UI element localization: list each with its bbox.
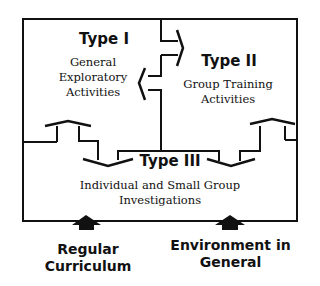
input-label-line: Regular: [38, 241, 138, 258]
type2-desc-line: Group Training: [168, 77, 288, 92]
input-arrow-regular-curriculum: [72, 215, 101, 230]
type2-description: Group Training Activities: [168, 77, 288, 107]
input-label-environment: Environment in General: [168, 237, 293, 271]
type3-desc-line: Investigations: [60, 193, 260, 208]
type3-desc-line: Individual and Small Group: [60, 178, 260, 193]
type1-desc-line: Exploratory: [38, 70, 148, 85]
input-label-line: Curriculum: [38, 258, 138, 275]
input-arrow-environment: [215, 215, 245, 230]
input-label-line: General: [168, 254, 293, 271]
type2-desc-line: Activities: [168, 92, 288, 107]
input-label-line: Environment in: [168, 237, 293, 254]
type3-title: Type III: [130, 152, 210, 170]
type1-title: Type I: [64, 30, 144, 48]
input-label-regular-curriculum: Regular Curriculum: [38, 241, 138, 275]
type1-desc-line: General: [38, 55, 148, 70]
type3-description: Individual and Small Group Investigation…: [60, 178, 260, 208]
type2-title: Type II: [189, 52, 269, 70]
type1-description: General Exploratory Activities: [38, 55, 148, 100]
type1-desc-line: Activities: [38, 85, 148, 100]
